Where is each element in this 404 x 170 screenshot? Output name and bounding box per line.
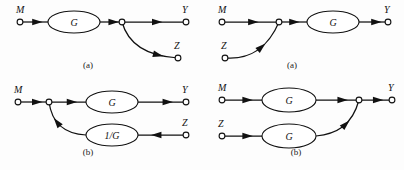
- node-label-top-left-Y: Y: [182, 4, 189, 15]
- panel-top-right: GMZY(a): [217, 4, 391, 70]
- node-label-bottom-left-Z: Z: [182, 117, 188, 128]
- edge-ginv-to-junction: [49, 102, 86, 135]
- block-label-G-upper: G: [285, 95, 292, 106]
- node-top-left-M: [17, 19, 23, 25]
- node-top-right-M: [219, 19, 225, 25]
- node-bottom-right-junction: [356, 97, 362, 103]
- arrowhead-junction-to-g: [67, 99, 77, 106]
- arrowhead-z-to-ginv: [151, 132, 161, 139]
- node-top-right-Z: [222, 55, 228, 61]
- arrowhead-g-upper-to-junction: [337, 97, 347, 104]
- node-top-left-Y: [183, 19, 189, 25]
- node-bottom-right-M: [219, 97, 225, 103]
- arrowhead-junction-to-g: [289, 19, 299, 26]
- arrowhead-m-to-g: [32, 19, 42, 26]
- caption-bottom-left: (b): [83, 147, 94, 157]
- node-label-bottom-right-M: M: [217, 82, 227, 93]
- node-label-bottom-right-Z: Z: [218, 118, 224, 129]
- node-top-right-Y: [385, 19, 391, 25]
- block-label-G: G: [329, 17, 336, 28]
- block-label-G-lower: G: [285, 131, 292, 142]
- block-label-G: G: [70, 17, 77, 28]
- edge-z-to-junction: [225, 22, 279, 58]
- arrowhead-z-to-g-lower: [242, 133, 252, 140]
- panel-bottom-right: GGMZY(b): [217, 82, 395, 157]
- node-top-left-junction: [119, 19, 125, 25]
- diagram-canvas: GMYZ(a)GMZY(a)G1/GMYZ(b)GGMZY(b): [0, 0, 404, 170]
- node-label-top-left-Z: Z: [174, 40, 180, 51]
- node-bottom-left-junction: [46, 99, 52, 105]
- node-top-right-junction: [276, 19, 282, 25]
- panel-top-left: GMYZ(a): [15, 4, 189, 70]
- node-bottom-right-Z: [219, 133, 225, 139]
- arrowhead-g-to-junction: [108, 19, 118, 26]
- block-label-G-inverse: 1/G: [105, 130, 120, 141]
- node-top-left-Z: [175, 55, 181, 61]
- node-label-top-right-M: M: [217, 4, 227, 15]
- node-label-top-left-M: M: [15, 4, 25, 15]
- node-label-bottom-left-M: M: [13, 84, 23, 95]
- block-label-G: G: [108, 97, 115, 108]
- arrowhead-junction-to-z: [152, 51, 164, 60]
- node-label-bottom-right-Y: Y: [388, 82, 395, 93]
- arrowhead-m-to-junction: [32, 99, 42, 106]
- signal-flow-graph-figure: GMYZ(a)GMZY(a)G1/GMYZ(b)GGMZY(b): [0, 0, 404, 170]
- edge-junction-to-z: [122, 22, 178, 58]
- edge-g-lower-to-junction: [316, 100, 359, 136]
- caption-bottom-right: (b): [291, 147, 302, 157]
- arrowhead-m-to-g-upper: [242, 97, 252, 104]
- node-bottom-right-Y: [389, 97, 395, 103]
- node-label-top-right-Y: Y: [384, 4, 391, 15]
- arrowhead-g-to-y: [163, 99, 173, 106]
- arrowhead-junction-to-y: [373, 97, 383, 104]
- node-bottom-left-Z: [183, 132, 189, 138]
- arrowhead-m-to-junction: [248, 19, 258, 26]
- arrowhead-g-to-y: [371, 19, 381, 26]
- node-bottom-left-Y: [183, 99, 189, 105]
- arrowhead-junction-to-y: [152, 19, 162, 26]
- node-label-bottom-left-Y: Y: [182, 84, 189, 95]
- panel-bottom-left: G1/GMYZ(b): [13, 84, 189, 157]
- caption-top-left: (a): [83, 60, 93, 70]
- caption-top-right: (a): [287, 60, 297, 70]
- node-label-top-right-Z: Z: [221, 40, 227, 51]
- node-bottom-left-M: [15, 99, 21, 105]
